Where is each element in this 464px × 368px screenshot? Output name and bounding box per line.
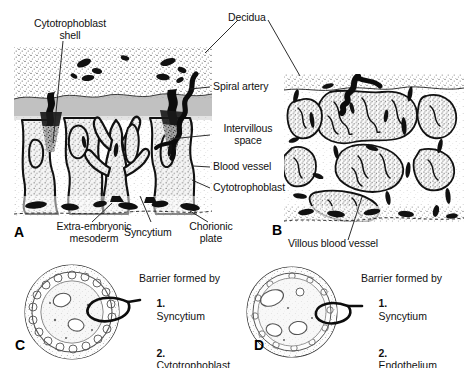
panel-a-artwork (14, 47, 212, 218)
panel-d-artwork (247, 267, 362, 357)
barrier-d-item-1: 1. Syncytium (361, 285, 442, 335)
barrier-c-item-2-text: Cytotrophoblast (157, 359, 231, 368)
panel-c-artwork (25, 265, 140, 359)
barrier-d-item-2-number: 2. (379, 347, 388, 359)
label-cytotrophoblast: Cytotrophoblast (213, 182, 285, 194)
barrier-c-heading: Barrier formed by (139, 272, 239, 284)
barrier-list-d: Barrier formed by 1. Syncytium 2. Endoth… (361, 272, 442, 368)
barrier-d-item-1-number: 1. (379, 297, 388, 309)
label-chorionic-plate: Chorionic plate (183, 221, 239, 244)
label-villous-blood-vessel: Villous blood vessel (288, 238, 378, 250)
barrier-c-item-2: 2. Cytotrophoblast (139, 335, 239, 368)
label-intervillous-space: Intervillous space (213, 123, 283, 146)
panel-b-artwork (283, 74, 464, 222)
panel-letter-c: C (15, 337, 25, 353)
barrier-d-item-1-text: Syncytium (379, 310, 427, 322)
label-syncytium: Syncytium (124, 227, 172, 239)
barrier-d-heading: Barrier formed by (361, 272, 442, 284)
barrier-c-item-2-number: 2. (157, 347, 166, 359)
figure-placental-barrier: Cytotrophoblast shell Decidua Spiral art… (0, 0, 464, 368)
label-decidua: Decidua (228, 12, 266, 24)
barrier-list-c: Barrier formed by 1. Syncytium 2. Cytotr… (139, 272, 239, 368)
label-spiral-artery: Spiral artery (213, 81, 268, 93)
barrier-c-item-1: 1. Syncytium (139, 285, 239, 335)
panel-letter-a: A (14, 224, 24, 240)
barrier-d-item-2: 2. Endothelium (361, 335, 442, 368)
label-blood-vessel: Blood vessel (213, 161, 271, 173)
barrier-d-item-2-text: Endothelium (379, 359, 437, 368)
panel-letter-b: B (272, 222, 282, 238)
label-cytotrophoblast-shell: Cytotrophoblast shell (8, 18, 132, 41)
barrier-c-item-1-number: 1. (157, 297, 166, 309)
barrier-c-item-1-text: Syncytium (157, 310, 205, 322)
panel-letter-d: D (254, 337, 264, 353)
